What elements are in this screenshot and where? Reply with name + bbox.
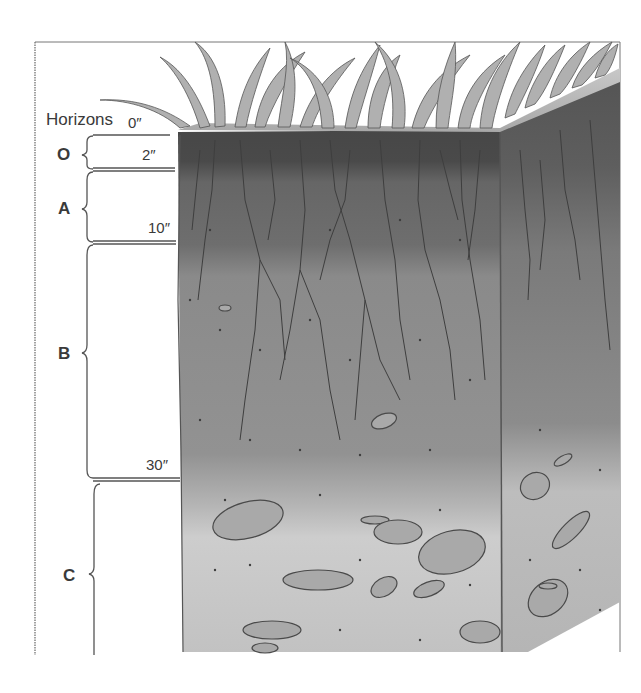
horizon-label-b: B	[58, 344, 70, 364]
depth-label-10: 10″	[148, 219, 170, 236]
soil-profile-illustration	[0, 0, 641, 693]
horizon-label-o: O	[57, 145, 70, 165]
bracket-o	[82, 136, 93, 169]
horizon-brackets	[82, 135, 180, 655]
bracket-b	[82, 245, 93, 478]
bracket-c	[89, 484, 100, 655]
diagram-title: Horizons	[46, 110, 113, 130]
bracket-a	[82, 172, 93, 242]
horizon-label-a: A	[58, 199, 70, 219]
horizon-label-c: C	[63, 566, 75, 586]
block-side-face	[500, 80, 620, 652]
soil-horizons-diagram: Horizons 0″ 2″ 10″ 30″ O A B C	[0, 0, 641, 693]
depth-label-2: 2″	[142, 146, 156, 163]
depth-label-0: 0″	[128, 114, 142, 131]
depth-label-30: 30″	[146, 456, 168, 473]
